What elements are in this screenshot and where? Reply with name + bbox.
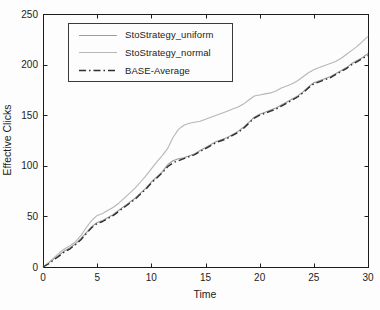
legend-label: StoStrategy_normal (125, 47, 211, 58)
legend: StoStrategy_uniform StoStrategy_normal B… (68, 23, 233, 82)
legend-item: StoStrategy_uniform (78, 26, 232, 43)
series-line-StoStrategy_uniform (43, 54, 368, 268)
y-axis-label: Effective Clicks (1, 105, 13, 176)
legend-line-glyph (78, 63, 118, 77)
x-tick-label: 20 (254, 272, 266, 283)
legend-label: StoStrategy_uniform (125, 29, 214, 40)
legend-item: StoStrategy_normal (78, 44, 232, 61)
y-tick-label: 250 (21, 9, 38, 20)
x-axis-label: Time (194, 288, 217, 300)
y-tick-label: 50 (27, 211, 39, 222)
y-tick-label: 0 (32, 262, 38, 273)
y-tick-label: 100 (21, 160, 38, 171)
legend-label: BASE-Average (125, 65, 190, 76)
legend-line-sample-uniform (78, 28, 118, 42)
x-tick-label: 10 (146, 272, 158, 283)
x-tick-label: 5 (94, 272, 100, 283)
y-tick-label: 200 (21, 59, 38, 70)
x-tick-label: 25 (308, 272, 320, 283)
x-tick-label: 15 (200, 272, 212, 283)
legend-item: BASE-Average (78, 62, 232, 79)
legend-line-sample-base (78, 63, 118, 77)
series-line-BASE-Average (43, 56, 368, 268)
legend-line-glyph (78, 45, 118, 59)
legend-line-glyph (78, 28, 118, 42)
chart-figure: 051015202530050100150200250 Time Effecti… (0, 0, 380, 310)
x-tick-label: 0 (40, 272, 46, 283)
x-tick-label: 30 (362, 272, 374, 283)
y-tick-label: 150 (21, 110, 38, 121)
legend-line-sample-normal (78, 45, 118, 59)
